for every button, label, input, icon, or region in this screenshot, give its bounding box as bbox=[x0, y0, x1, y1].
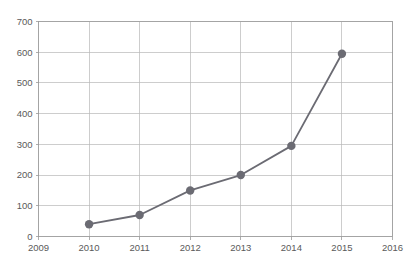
x-axis-tick-label: 2012 bbox=[180, 242, 201, 253]
x-axis-tick-label: 2016 bbox=[382, 242, 403, 253]
data-point-marker: 2010: 40 bbox=[85, 220, 93, 228]
y-axis-tick-label: 200 bbox=[17, 169, 33, 180]
x-axis-tick-label: 2009 bbox=[28, 242, 49, 253]
data-point-marker: 2011: 70 bbox=[135, 211, 143, 219]
data-point-marker: 2012: 150 bbox=[186, 186, 194, 194]
x-axis-tick-label: 2013 bbox=[230, 242, 251, 253]
x-axis-tick-label: 2011 bbox=[129, 242, 149, 253]
x-axis-tick-label: 2010 bbox=[79, 242, 100, 253]
data-point-marker: 2014: 295 bbox=[287, 142, 295, 150]
chart-background bbox=[0, 0, 409, 265]
y-axis-tick-label: 300 bbox=[17, 139, 33, 150]
data-point-marker: 2013: 200 bbox=[237, 171, 245, 179]
y-axis-tick-label: 700 bbox=[17, 16, 33, 27]
chart-container: 0100200300400500600700 20092010201120122… bbox=[0, 0, 409, 265]
x-axis-tick-label: 2015 bbox=[331, 242, 352, 253]
data-point-marker: 2015: 595 bbox=[338, 50, 346, 58]
x-axis-tick-label: 2014 bbox=[281, 242, 302, 253]
y-axis-tick-label: 600 bbox=[17, 47, 33, 58]
y-axis-tick-label: 400 bbox=[17, 108, 33, 119]
y-axis-tick-label: 500 bbox=[17, 77, 33, 88]
y-axis-tick-label: 100 bbox=[17, 200, 33, 211]
y-axis-tick-label: 0 bbox=[27, 231, 32, 242]
line-chart: 0100200300400500600700 20092010201120122… bbox=[0, 0, 409, 265]
